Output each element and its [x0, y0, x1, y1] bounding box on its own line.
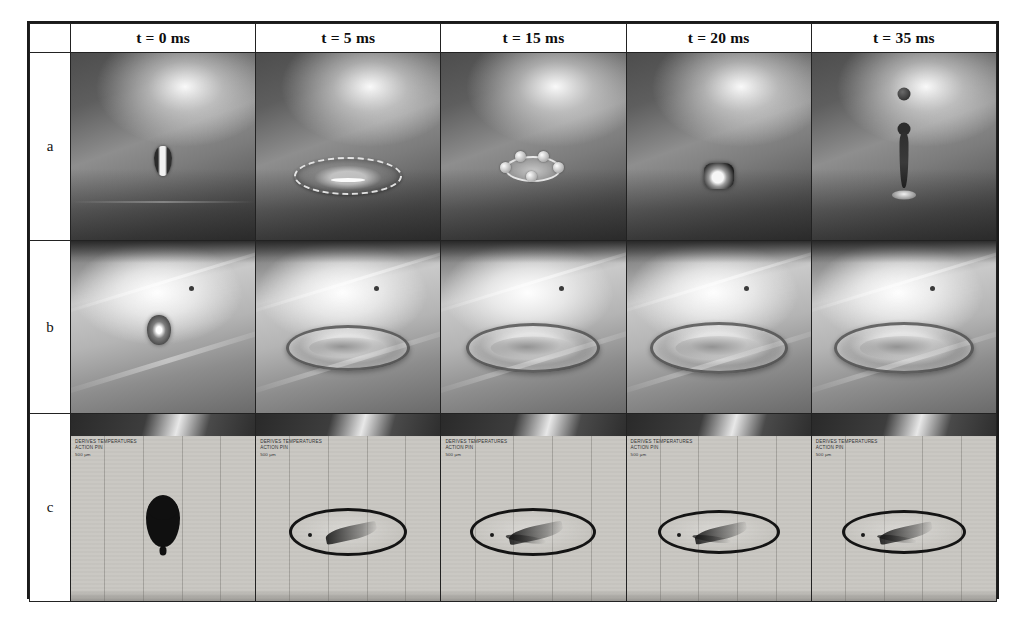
spread-ring [650, 322, 788, 374]
lower-shadow-band [812, 590, 996, 601]
column-header-t35: t = 35 ms [811, 24, 996, 53]
dust-speck [559, 286, 564, 291]
scene-backdrop [627, 53, 811, 240]
rim-lobe [515, 151, 526, 162]
row-label-a: a [30, 53, 71, 241]
jet-base [892, 191, 916, 200]
image-a-t20 [627, 53, 811, 240]
column-header-t0: t = 0 ms [71, 24, 256, 53]
scene-backdrop [256, 53, 440, 240]
spread-silhouette [842, 510, 966, 554]
interior-structure [324, 520, 377, 545]
instrument-overlay: DERIVES TEMPERATURES ACTION PIN 500 µm [260, 439, 322, 457]
rim-detail [490, 533, 494, 537]
panel-a-t20 [626, 53, 811, 241]
lower-shadow-band [627, 590, 811, 601]
dust-speck [374, 286, 379, 291]
panel-c-t20: DERIVES TEMPERATURES ACTION PIN 500 µm [626, 414, 811, 602]
overlay-scale-bar-label: 500 µm [816, 452, 878, 458]
panel-a-t0 [71, 53, 256, 241]
image-a-t35 [812, 53, 996, 240]
panel-a-t5 [256, 53, 441, 241]
image-a-t5 [256, 53, 440, 240]
spread-silhouette [470, 508, 596, 556]
upper-shadow-band [71, 414, 255, 436]
image-a-t0 [71, 53, 255, 240]
instrument-overlay: DERIVES TEMPERATURES ACTION PIN 500 µm [75, 439, 137, 457]
collapsing-droplet [704, 163, 734, 189]
image-a-t15 [441, 53, 625, 240]
image-c-t35: DERIVES TEMPERATURES ACTION PIN 500 µm [812, 414, 996, 601]
upper-shadow-band [812, 414, 996, 436]
corner-cell [30, 24, 71, 53]
droplet-tail [160, 547, 167, 556]
overlay-scale-bar-label: 500 µm [75, 452, 137, 458]
column-header-t20: t = 20 ms [626, 24, 811, 53]
image-b-t35 [812, 241, 996, 413]
panel-a-t15 [441, 53, 626, 241]
rim-lobe [538, 151, 549, 162]
image-c-t20: DERIVES TEMPERATURES ACTION PIN 500 µm [627, 414, 811, 601]
image-b-t20 [627, 241, 811, 413]
row-label-b: b [30, 241, 71, 414]
lower-shadow-band [71, 590, 255, 601]
dust-speck [930, 286, 935, 291]
panel-c-t15: DERIVES TEMPERATURES ACTION PIN 500 µm [441, 414, 626, 602]
lower-shadow-band [256, 590, 440, 601]
panel-b-t20 [626, 241, 811, 414]
rim-detail [861, 533, 865, 537]
rim-detail [677, 533, 681, 537]
spread-silhouette [658, 510, 780, 554]
rim-lobe [526, 171, 537, 182]
panel-b-t0 [71, 241, 256, 414]
panel-b-t15 [441, 241, 626, 414]
droplet-impacting [147, 315, 171, 345]
lamella-highlight [331, 178, 365, 182]
frame-grid: t = 0 ms t = 5 ms t = 15 ms t = 20 ms t … [29, 23, 997, 602]
instrument-overlay: DERIVES TEMPERATURES ACTION PIN 500 µm [816, 439, 878, 457]
overlay-scale-bar-label: 500 µm [631, 452, 693, 458]
panel-b-t5 [256, 241, 441, 414]
table-row: b [30, 241, 997, 414]
spread-silhouette [289, 508, 407, 556]
column-header-t15: t = 15 ms [441, 24, 626, 53]
upper-shadow-band [441, 414, 625, 436]
panel-c-t5: DERIVES TEMPERATURES ACTION PIN 500 µm [256, 414, 441, 602]
spread-ring [286, 325, 410, 371]
droplet-head [148, 498, 178, 520]
rim-lobe [553, 162, 564, 173]
ring-interior [675, 336, 762, 360]
spread-ring [834, 322, 974, 374]
overlay-scale-bar-label: 500 µm [260, 452, 322, 458]
satellite-droplet [897, 88, 910, 101]
spreading-lamella-crown [294, 157, 402, 195]
rim-lobe [500, 162, 511, 173]
image-c-t15: DERIVES TEMPERATURES ACTION PIN 500 µm [441, 414, 625, 601]
image-c-t0: DERIVES TEMPERATURES ACTION PIN 500 µm [71, 414, 255, 601]
overlay-scale-bar-label: 500 µm [445, 452, 507, 458]
receding-lamella [505, 156, 561, 182]
spread-ring [466, 323, 600, 373]
row-label-c: c [30, 414, 71, 602]
dust-speck [189, 286, 194, 291]
scene-backdrop [441, 53, 625, 240]
image-b-t5 [256, 241, 440, 413]
panel-c-t0: DERIVES TEMPERATURES ACTION PIN 500 µm [71, 414, 256, 602]
ring-interior [309, 337, 387, 358]
image-c-t5: DERIVES TEMPERATURES ACTION PIN 500 µm [256, 414, 440, 601]
upper-shadow-band [627, 414, 811, 436]
image-b-t15 [441, 241, 625, 413]
liquid-surface-line [71, 201, 255, 203]
ring-interior [860, 336, 948, 360]
header-row: t = 0 ms t = 5 ms t = 15 ms t = 20 ms t … [30, 24, 997, 53]
upper-shadow-band [256, 414, 440, 436]
column-header-t5: t = 5 ms [256, 24, 441, 53]
panel-a-t35 [811, 53, 996, 241]
table-row: c DERIVES TEMPERATURES ACTION PIN 500 µm [30, 414, 997, 602]
table-row: a [30, 53, 997, 241]
ring-interior [491, 336, 575, 359]
image-b-t0 [71, 241, 255, 413]
panel-b-t35 [811, 241, 996, 414]
instrument-overlay: DERIVES TEMPERATURES ACTION PIN 500 µm [445, 439, 507, 457]
figure-container: t = 0 ms t = 5 ms t = 15 ms t = 20 ms t … [27, 21, 999, 599]
